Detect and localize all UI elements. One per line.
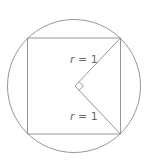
upper-radius-label: r = 1 xyxy=(70,53,98,66)
right-angle-marker xyxy=(79,82,83,91)
lower-radius-label: r = 1 xyxy=(70,110,98,123)
inscribed-square-diagram: r = 1 r = 1 xyxy=(0,0,152,167)
